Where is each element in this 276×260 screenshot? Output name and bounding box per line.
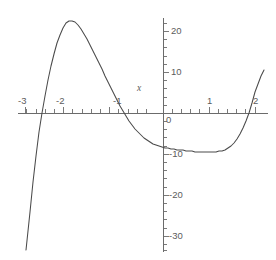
x-axis-variable-label: x xyxy=(136,83,142,93)
x-tick-label-neg1: -1 xyxy=(113,95,121,106)
x-tick-label-neg2: -2 xyxy=(56,95,64,106)
y-axis-major-ticks xyxy=(163,31,169,236)
y-axis xyxy=(163,18,169,252)
y-tick-label-20: 20 xyxy=(171,25,182,36)
x-tick-label-pos2: 2 xyxy=(253,95,258,106)
y-tick-label-neg30: -30 xyxy=(169,230,183,241)
x-axis xyxy=(18,107,268,113)
x-axis-major-ticks xyxy=(25,107,255,113)
y-tick-label-neg10: -10 xyxy=(169,148,183,159)
y-tick-label-neg20: -20 xyxy=(169,189,183,200)
function-curve xyxy=(26,21,264,250)
y-tick-label-10: 10 xyxy=(171,66,182,77)
x-axis-minor-ticks xyxy=(27,109,246,113)
function-plot: -3 -2 -1 1 2 0 20 10 -10 -20 -30 x xyxy=(0,0,276,260)
x-tick-label-pos1: 1 xyxy=(207,95,212,106)
x-tick-label-zero: 0 xyxy=(166,114,171,125)
plot-canvas: -3 -2 -1 1 2 0 20 10 -10 -20 -30 x xyxy=(0,0,276,260)
y-axis-minor-ticks xyxy=(163,24,167,250)
x-tick-label-neg3: -3 xyxy=(18,95,26,106)
